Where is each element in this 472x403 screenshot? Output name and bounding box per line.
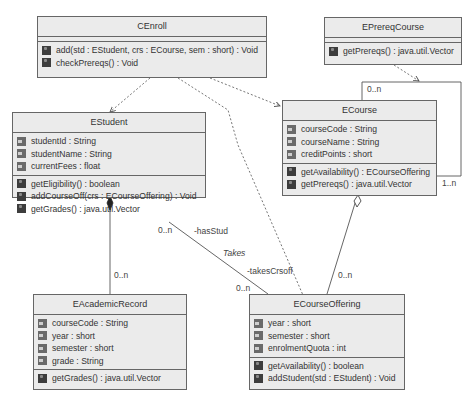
- operations-section: getGrades() : java.util.Vector: [34, 370, 186, 387]
- class-name: ECourse: [283, 101, 436, 121]
- attribute-icon: [38, 356, 47, 365]
- class-ecourseoffering[interactable]: ECourseOffering year : short semester : …: [249, 294, 405, 390]
- operation-row[interactable]: getPrereqs() : java.util.Vector: [329, 45, 461, 58]
- attribute-row[interactable]: studentName : String: [17, 148, 205, 161]
- attribute-text: courseName : String: [301, 136, 379, 149]
- operation-icon: [329, 47, 338, 56]
- attribute-icon: [254, 344, 263, 353]
- operation-icon: [42, 46, 51, 55]
- class-estudent[interactable]: EStudent studentId : String studentName …: [12, 112, 206, 198]
- operation-row[interactable]: addCourseOff(crs : ECourseOffering) : Vo…: [17, 190, 205, 203]
- attribute-icon: [254, 319, 263, 328]
- attribute-row[interactable]: semester : short: [38, 342, 186, 355]
- attribute-row[interactable]: currentFees : float: [17, 160, 205, 173]
- operation-text: getAvailability() : boolean: [268, 360, 364, 373]
- attributes-section: year : short semester : short enrolmentQ…: [250, 315, 404, 358]
- attribute-row[interactable]: year : short: [38, 330, 186, 343]
- operations-section: getEligibility() : boolean addCourseOff(…: [13, 176, 205, 218]
- attribute-row[interactable]: courseCode : String: [38, 317, 186, 330]
- attribute-text: semester : short: [52, 342, 114, 355]
- attribute-row[interactable]: grade : String: [38, 355, 186, 368]
- class-name: ECourseOffering: [250, 295, 404, 315]
- attribute-text: studentId : String: [31, 135, 96, 148]
- operation-row[interactable]: getAvailability() : boolean: [254, 360, 404, 373]
- operation-row[interactable]: checkPrereqs() : Void: [42, 57, 266, 70]
- attribute-row[interactable]: year : short: [254, 317, 404, 330]
- attribute-text: creditPoints : short: [301, 148, 372, 161]
- attributes-section: studentId : String studentName : String …: [13, 133, 205, 176]
- operation-row[interactable]: addStudent(std : EStudent) : Void: [254, 372, 404, 385]
- operation-row[interactable]: getEligibility() : boolean: [17, 178, 205, 191]
- class-name: EAcademicRecord: [34, 295, 186, 315]
- operation-icon: [17, 204, 26, 213]
- operation-icon: [287, 167, 296, 176]
- dependency-eprereq-ecourse: [394, 65, 419, 81]
- aggregation-diamond: [354, 195, 361, 207]
- class-name: EStudent: [13, 113, 205, 133]
- operation-text: checkPrereqs() : Void: [56, 57, 138, 70]
- operation-icon: [42, 58, 51, 67]
- attribute-row[interactable]: semester : short: [254, 330, 404, 343]
- dependency-cenroll-ecourse: [210, 78, 280, 106]
- attribute-text: studentName : String: [31, 148, 112, 161]
- attribute-text: grade : String: [52, 355, 104, 368]
- multiplicity-student-record: 0..n: [114, 270, 128, 280]
- operation-row[interactable]: getAvailability() : ECourseOffering: [287, 166, 436, 179]
- operation-row[interactable]: getGrades() : java.util.Vector: [17, 203, 205, 216]
- multiplicity-ecourse-self-top: 0..n: [367, 84, 381, 94]
- operation-icon: [38, 374, 47, 383]
- attribute-text: enrolmentQuota : int: [268, 342, 346, 355]
- multiplicity-course-offering: 0..n: [338, 270, 352, 280]
- attribute-icon: [287, 137, 296, 146]
- attribute-text: semester : short: [268, 330, 330, 343]
- class-name: CEnroll: [38, 17, 266, 37]
- operation-row[interactable]: add(std : EStudent, crs : ECourse, sem :…: [42, 44, 266, 57]
- attribute-icon: [287, 125, 296, 134]
- role-takes-crsoff: -takesCrsoff: [247, 266, 293, 276]
- class-cenroll[interactable]: CEnroll add(std : EStudent, crs : ECours…: [37, 16, 267, 78]
- class-ecourse[interactable]: ECourse courseCode : String courseName :…: [282, 100, 437, 196]
- attributes-section: courseCode : String year : short semeste…: [34, 315, 186, 370]
- operation-text: getPrereqs() : java.util.Vector: [301, 178, 412, 191]
- multiplicity-takes-offering: 0..n: [236, 283, 250, 293]
- role-has-stud: -hasStud: [194, 226, 228, 236]
- operation-icon: [254, 374, 263, 383]
- association-name-takes: Takes: [223, 248, 245, 258]
- operations-section: add(std : EStudent, crs : ECourse, sem :…: [38, 42, 266, 71]
- attribute-row[interactable]: courseName : String: [287, 136, 436, 149]
- operations-section: getAvailability() : boolean addStudent(s…: [250, 358, 404, 387]
- operations-section: getAvailability() : ECourseOffering getP…: [283, 164, 436, 193]
- attribute-icon: [287, 150, 296, 159]
- operation-row[interactable]: getPrereqs() : java.util.Vector: [287, 178, 436, 191]
- attribute-row[interactable]: enrolmentQuota : int: [254, 342, 404, 355]
- attribute-text: courseCode : String: [52, 317, 128, 330]
- operation-row[interactable]: getGrades() : java.util.Vector: [38, 372, 186, 385]
- operation-icon: [254, 361, 263, 370]
- multiplicity-takes-student: 0..n: [158, 225, 172, 235]
- attribute-icon: [17, 162, 26, 171]
- operation-text: getEligibility() : boolean: [31, 178, 120, 191]
- attribute-row[interactable]: studentId : String: [17, 135, 205, 148]
- attribute-row[interactable]: creditPoints : short: [287, 148, 436, 161]
- attribute-row[interactable]: courseCode : String: [287, 123, 436, 136]
- attribute-icon: [17, 137, 26, 146]
- attribute-text: courseCode : String: [301, 123, 377, 136]
- attribute-icon: [38, 319, 47, 328]
- class-name: EPrereqCourse: [325, 18, 461, 38]
- attribute-text: year : short: [52, 330, 95, 343]
- operation-icon: [17, 179, 26, 188]
- attribute-icon: [17, 149, 26, 158]
- class-eprereqcourse[interactable]: EPrereqCourse getPrereqs() : java.util.V…: [324, 17, 462, 65]
- class-eacademicrecord[interactable]: EAcademicRecord courseCode : String year…: [33, 294, 187, 390]
- operation-text: add(std : EStudent, crs : ECourse, sem :…: [56, 44, 258, 57]
- attribute-icon: [38, 331, 47, 340]
- operation-text: getAvailability() : ECourseOffering: [301, 166, 430, 179]
- operation-text: addStudent(std : EStudent) : Void: [268, 372, 396, 385]
- multiplicity-ecourse-self-right: 1..n: [442, 178, 456, 188]
- operation-text: getPrereqs() : java.util.Vector: [343, 45, 454, 58]
- operation-icon: [287, 180, 296, 189]
- attribute-text: currentFees : float: [31, 160, 100, 173]
- dependency-cenroll-estudent: [110, 78, 150, 112]
- attributes-section: courseCode : String courseName : String …: [283, 121, 436, 164]
- attribute-icon: [38, 344, 47, 353]
